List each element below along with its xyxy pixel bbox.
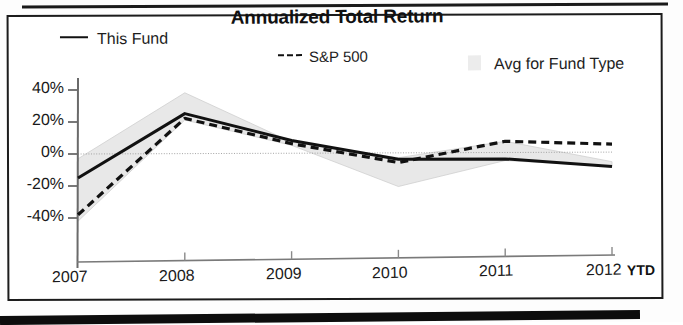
legend-label-this-fund: This Fund: [97, 30, 168, 47]
band-swatch-icon: [468, 56, 481, 71]
y-axis-tick-label: 40%: [8, 79, 64, 97]
x-axis-tick-label: 2007: [52, 268, 88, 287]
x-axis-ytd-label: YTD: [627, 262, 655, 278]
chart-title: Annualized Total Return: [192, 5, 482, 29]
x-axis-tick-label: 2011: [479, 262, 514, 281]
x-axis-tick-label: 2009: [265, 265, 301, 284]
y-axis-tick-label: -40%: [8, 207, 64, 225]
x-axis-tick-label: 2008: [159, 266, 195, 285]
x-axis-tick-label: 2012: [586, 261, 622, 280]
y-axis-tick-label: 0%: [8, 143, 64, 161]
legend-item-sp500: S&P 500: [278, 48, 368, 65]
scan-artifact-bottom-rule: [0, 310, 640, 325]
legend-item-avg-for-fund-type: Avg for Fund Type: [468, 55, 624, 74]
legend-item-this-fund: This Fund: [60, 30, 168, 49]
legend-label-avg-for-fund-type: Avg for Fund Type: [494, 55, 624, 73]
solid-line-swatch-icon: [60, 36, 88, 38]
y-axis-tick-label: 20%: [8, 111, 64, 129]
y-axis-tick-label: -20%: [8, 175, 64, 193]
legend-label-sp500: S&P 500: [309, 48, 368, 65]
x-axis-tick-label: 2010: [372, 264, 408, 283]
dashed-line-swatch-icon: [278, 54, 302, 56]
